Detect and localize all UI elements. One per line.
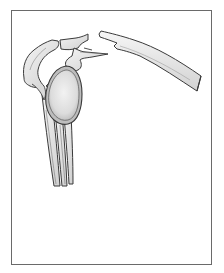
figure-canvas bbox=[0, 0, 224, 273]
acromion-tip bbox=[60, 34, 88, 50]
glenoid-fossa bbox=[46, 66, 82, 124]
shoulder-illustration bbox=[0, 0, 224, 273]
clavicle bbox=[99, 31, 201, 91]
